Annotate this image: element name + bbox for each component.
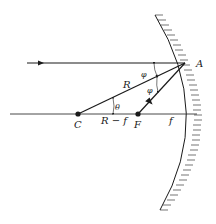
focal-point-f [135, 111, 140, 116]
label-f-length: f [168, 115, 175, 126]
center-point-c [75, 111, 80, 116]
label-f: F [133, 119, 142, 130]
incident-ray-arrow [38, 61, 44, 66]
label-a: A [195, 58, 203, 69]
label-c: C [74, 119, 82, 130]
angle-arc-theta [113, 98, 114, 114]
angle-arc-phi-1 [154, 63, 157, 76]
label-phi-incidence: φ [141, 70, 147, 79]
label-phi-reflection: φ [147, 86, 153, 95]
mirror-hatching [155, 15, 202, 210]
radius-line [78, 63, 185, 114]
concave-mirror [155, 15, 186, 210]
label-r-minus-f: R − f [100, 115, 129, 126]
mirror-diagram: A C F R R − f f φ φ θ [0, 0, 216, 224]
angle-arc-phi-2 [157, 77, 158, 92]
label-r: R [122, 79, 131, 90]
label-theta: θ [115, 103, 120, 112]
